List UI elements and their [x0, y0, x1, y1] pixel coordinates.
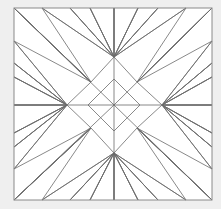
starburst-figure: [0, 0, 221, 209]
figure-root: [0, 0, 221, 209]
